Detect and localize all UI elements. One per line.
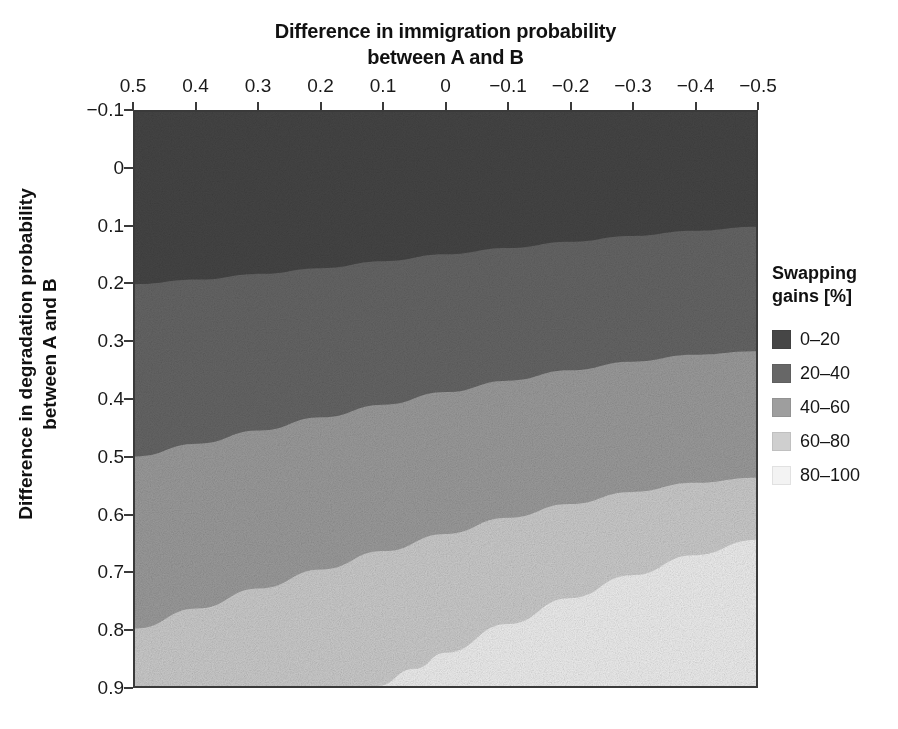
x-tick-label: −0.2 [552, 74, 590, 98]
x-tick-label: 0.5 [120, 74, 146, 98]
x-tick-mark [445, 102, 447, 110]
y-tick-label: 0.5 [98, 446, 124, 468]
legend-item[interactable]: 20–40 [772, 356, 898, 390]
y-tick-label: 0.8 [98, 619, 124, 641]
y-tick-mark [124, 282, 133, 284]
legend-title-line1: Swapping [772, 262, 898, 285]
y-tick-mark [124, 340, 133, 342]
y-tick-mark [124, 687, 133, 689]
x-tick-label: 0 [440, 74, 451, 98]
plot-area [133, 110, 758, 688]
y-tick-mark [124, 456, 133, 458]
y-tick-mark [124, 514, 133, 516]
y-tick-mark [124, 629, 133, 631]
legend-swatch-icon [772, 466, 791, 485]
x-axis-title-line1: Difference in immigration probability [133, 18, 758, 44]
x-tick-label: 0.1 [370, 74, 396, 98]
x-tick-label: −0.4 [677, 74, 715, 98]
legend-item[interactable]: 60–80 [772, 424, 898, 458]
x-axis-title: Difference in immigration probability be… [133, 18, 758, 70]
legend-title: Swapping gains [%] [772, 262, 898, 308]
legend-item-label: 80–100 [800, 464, 860, 486]
x-tick-label: 0.4 [182, 74, 208, 98]
contour-bands [135, 112, 756, 686]
y-tick-mark [124, 167, 133, 169]
legend-title-line2: gains [%] [772, 285, 898, 308]
x-tick-label: −0.5 [739, 74, 777, 98]
x-tick-mark [195, 102, 197, 110]
legend-item[interactable]: 40–60 [772, 390, 898, 424]
y-tick-mark [124, 225, 133, 227]
y-tick-label: 0.6 [98, 504, 124, 526]
y-tick-label: 0.1 [98, 215, 124, 237]
legend-swatch-icon [772, 432, 791, 451]
x-tick-mark [757, 102, 759, 110]
y-axis-title-line2: between A and B [38, 54, 62, 654]
legend-items: 0–2020–4040–6060–8080–100 [772, 322, 898, 492]
y-tick-mark [124, 109, 133, 111]
legend: Swapping gains [%] 0–2020–4040–6060–8080… [772, 262, 898, 492]
legend-item-label: 0–20 [800, 328, 840, 350]
y-tick-label: 0.7 [98, 561, 124, 583]
y-tick-mark [124, 398, 133, 400]
x-tick-label: 0.3 [245, 74, 271, 98]
x-tick-mark [570, 102, 572, 110]
x-tick-label: 0.2 [307, 74, 333, 98]
legend-swatch-icon [772, 330, 791, 349]
x-tick-mark [320, 102, 322, 110]
y-tick-label: 0.9 [98, 677, 124, 699]
x-tick-mark [382, 102, 384, 110]
legend-item[interactable]: 80–100 [772, 458, 898, 492]
y-axis-title: Difference in degradation probability be… [14, 54, 62, 654]
y-tick-mark [124, 571, 133, 573]
y-tick-label: 0.2 [98, 272, 124, 294]
x-tick-mark [257, 102, 259, 110]
y-tick-label: 0.4 [98, 388, 124, 410]
y-tick-label: −0.1 [86, 99, 124, 121]
y-tick-label: 0.3 [98, 330, 124, 352]
x-tick-label: −0.1 [489, 74, 527, 98]
y-axis-tick-labels: −0.100.10.20.30.40.50.60.70.80.9 [62, 110, 124, 688]
x-tick-mark [632, 102, 634, 110]
x-axis-tick-labels: 0.50.40.30.20.10−0.1−0.2−0.3−0.4−0.5 [133, 74, 758, 100]
x-tick-label: −0.3 [614, 74, 652, 98]
legend-item-label: 40–60 [800, 396, 850, 418]
legend-swatch-icon [772, 364, 791, 383]
legend-item[interactable]: 0–20 [772, 322, 898, 356]
legend-item-label: 20–40 [800, 362, 850, 384]
x-tick-mark [507, 102, 509, 110]
contour-figure: Difference in immigration probability be… [0, 0, 898, 729]
legend-swatch-icon [772, 398, 791, 417]
x-tick-mark [695, 102, 697, 110]
y-axis-title-line1: Difference in degradation probability [14, 54, 38, 654]
legend-item-label: 60–80 [800, 430, 850, 452]
x-axis-title-line2: between A and B [133, 44, 758, 70]
y-tick-label: 0 [113, 157, 124, 179]
